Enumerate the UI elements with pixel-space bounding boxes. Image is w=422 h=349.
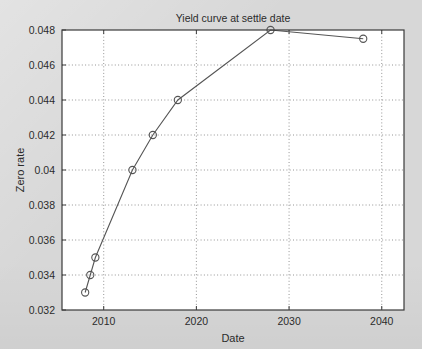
y-tick-label: 0.038 [29,199,55,211]
y-tick-label: 0.036 [29,234,55,246]
y-tick-label: 0.04 [35,164,56,176]
x-axis-label: Date [221,332,244,344]
figure-canvas: 0.0320.0340.0360.0380.040.0420.0440.0460… [0,0,422,349]
y-tick-label: 0.046 [29,59,55,71]
x-tick-label: 2040 [370,315,394,327]
chart-title: Yield curve at settle date [176,12,291,24]
y-tick-label: 0.048 [29,24,55,36]
x-tick-label: 2030 [277,315,301,327]
y-axis-tick-labels: 0.0320.0340.0360.0380.040.0420.0440.0460… [29,24,55,316]
y-tick-label: 0.042 [29,129,55,141]
y-tick-label: 0.032 [29,304,55,316]
yield-curve-chart: 0.0320.0340.0360.0380.040.0420.0440.0460… [0,0,422,349]
x-tick-label: 2020 [185,315,209,327]
y-tick-label: 0.034 [29,269,55,281]
x-tick-label: 2010 [92,315,116,327]
y-tick-label: 0.044 [29,94,55,106]
x-axis-tick-labels: 2010202020302040 [92,315,394,327]
y-axis-label: Zero rate [14,148,26,193]
